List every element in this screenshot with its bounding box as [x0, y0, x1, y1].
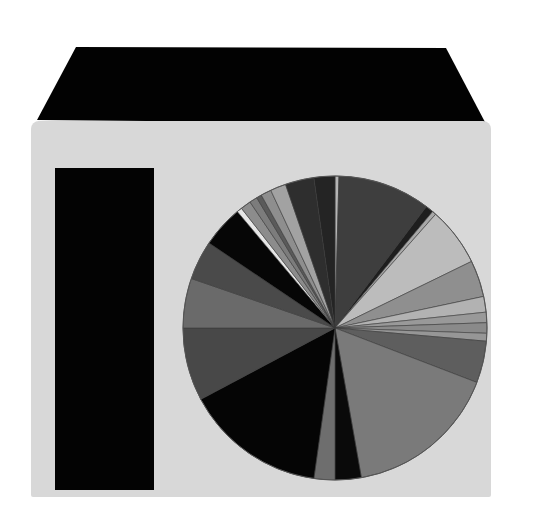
pie-chart [0, 0, 533, 528]
